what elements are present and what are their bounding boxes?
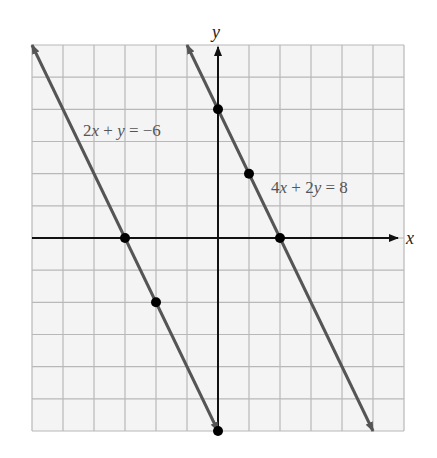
data-point bbox=[151, 297, 161, 307]
data-point bbox=[275, 233, 285, 243]
data-point bbox=[213, 426, 223, 436]
data-point bbox=[120, 233, 130, 243]
y-axis-label: y bbox=[210, 22, 220, 42]
data-point bbox=[244, 169, 254, 179]
data-point bbox=[213, 104, 223, 114]
equation-label-2: 4x + 2y = 8 bbox=[271, 178, 348, 197]
x-axis-label: x bbox=[405, 228, 414, 248]
coordinate-plane-chart: x y 2x + y = −6 4x + 2y = 8 bbox=[0, 0, 437, 458]
equation-label-1: 2x + y = −6 bbox=[83, 121, 161, 140]
